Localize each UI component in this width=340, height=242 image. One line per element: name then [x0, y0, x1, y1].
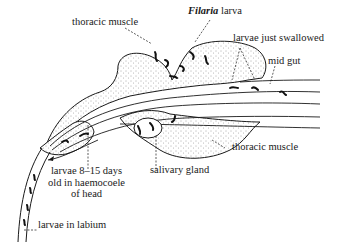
label-thoracic-muscle-bottom: thoracic muscle [232, 141, 298, 152]
label-filaria-larva: Filaria larva [188, 5, 242, 16]
label-thoracic-muscle-top: thoracic muscle [72, 16, 138, 27]
label-larvae-just-swallowed: larvae just swallowed [233, 32, 324, 43]
label-larvae-labium: larvae in labium [38, 219, 106, 230]
label-larva-rest: larva [218, 5, 242, 16]
label-mid-gut: mid gut [268, 55, 300, 66]
label-larvae-head: larvae 8–15 days old in haemocoele of he… [48, 165, 125, 200]
label-salivary-gland: salivary gland [150, 164, 209, 175]
mid-gut-top-line [240, 80, 320, 82]
label-filaria-italic: Filaria [188, 5, 218, 16]
